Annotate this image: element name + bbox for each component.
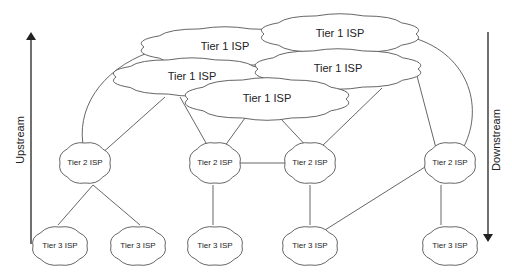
node-label: Tier 2 ISP [432, 158, 467, 167]
upstream-label: Upstream [14, 116, 26, 164]
cloud-t3-2: Tier 3 ISP [111, 227, 166, 266]
cloud-t3-1: Tier 3 ISP [33, 227, 88, 266]
tier1-group: Tier 1 ISPTier 1 ISPTier 1 ISPTier 1 ISP… [113, 14, 420, 121]
node-label: Tier 2 ISP [292, 158, 327, 167]
link-t1d-t2-4 [416, 72, 437, 152]
node-label: Tier 2 ISP [67, 158, 102, 167]
link-t2-1-t3-2 [93, 185, 140, 225]
node-label: Tier 3 ISP [42, 241, 77, 250]
upstream-axis: Upstream [14, 36, 31, 244]
cloud-t1-e: Tier 1 ISP [185, 78, 348, 121]
node-label: Tier 3 ISP [432, 241, 467, 250]
cloud-t2-1: Tier 2 ISP [60, 143, 111, 184]
cloud-t2-2: Tier 2 ISP [190, 143, 241, 184]
node-label: Tier 2 ISP [197, 158, 232, 167]
cloud-t1-b: Tier 1 ISP [261, 14, 418, 55]
node-label: Tier 3 ISP [120, 241, 155, 250]
link-t1b-t2-4 [414, 38, 472, 150]
node-label: Tier 1 ISP [316, 27, 365, 39]
cloud-t2-4: Tier 2 ISP [425, 143, 476, 184]
isp-hierarchy-diagram: Tier 1 ISPTier 1 ISPTier 1 ISPTier 1 ISP… [0, 0, 512, 278]
downstream-axis: Downstream [488, 32, 502, 238]
node-label: Tier 1 ISP [314, 62, 363, 74]
node-label: Tier 1 ISP [168, 70, 217, 82]
link-t1c-t2-1 [100, 97, 165, 155]
cloud-t3-5: Tier 3 ISP [423, 227, 478, 266]
node-label: Tier 1 ISP [201, 40, 250, 52]
cloud-t2-3: Tier 2 ISP [285, 143, 336, 184]
cloud-t3-3: Tier 3 ISP [188, 227, 243, 266]
cloud-t3-4: Tier 3 ISP [283, 227, 338, 266]
node-label: Tier 3 ISP [292, 241, 327, 250]
node-label: Tier 3 ISP [197, 241, 232, 250]
link-t2-4-t3-4 [325, 167, 425, 230]
node-label: Tier 1 ISP [243, 92, 292, 104]
link-t2-1-t3-1 [58, 185, 93, 225]
downstream-label: Downstream [490, 109, 502, 171]
tier3-group: Tier 3 ISPTier 3 ISPTier 3 ISPTier 3 ISP… [33, 227, 478, 266]
